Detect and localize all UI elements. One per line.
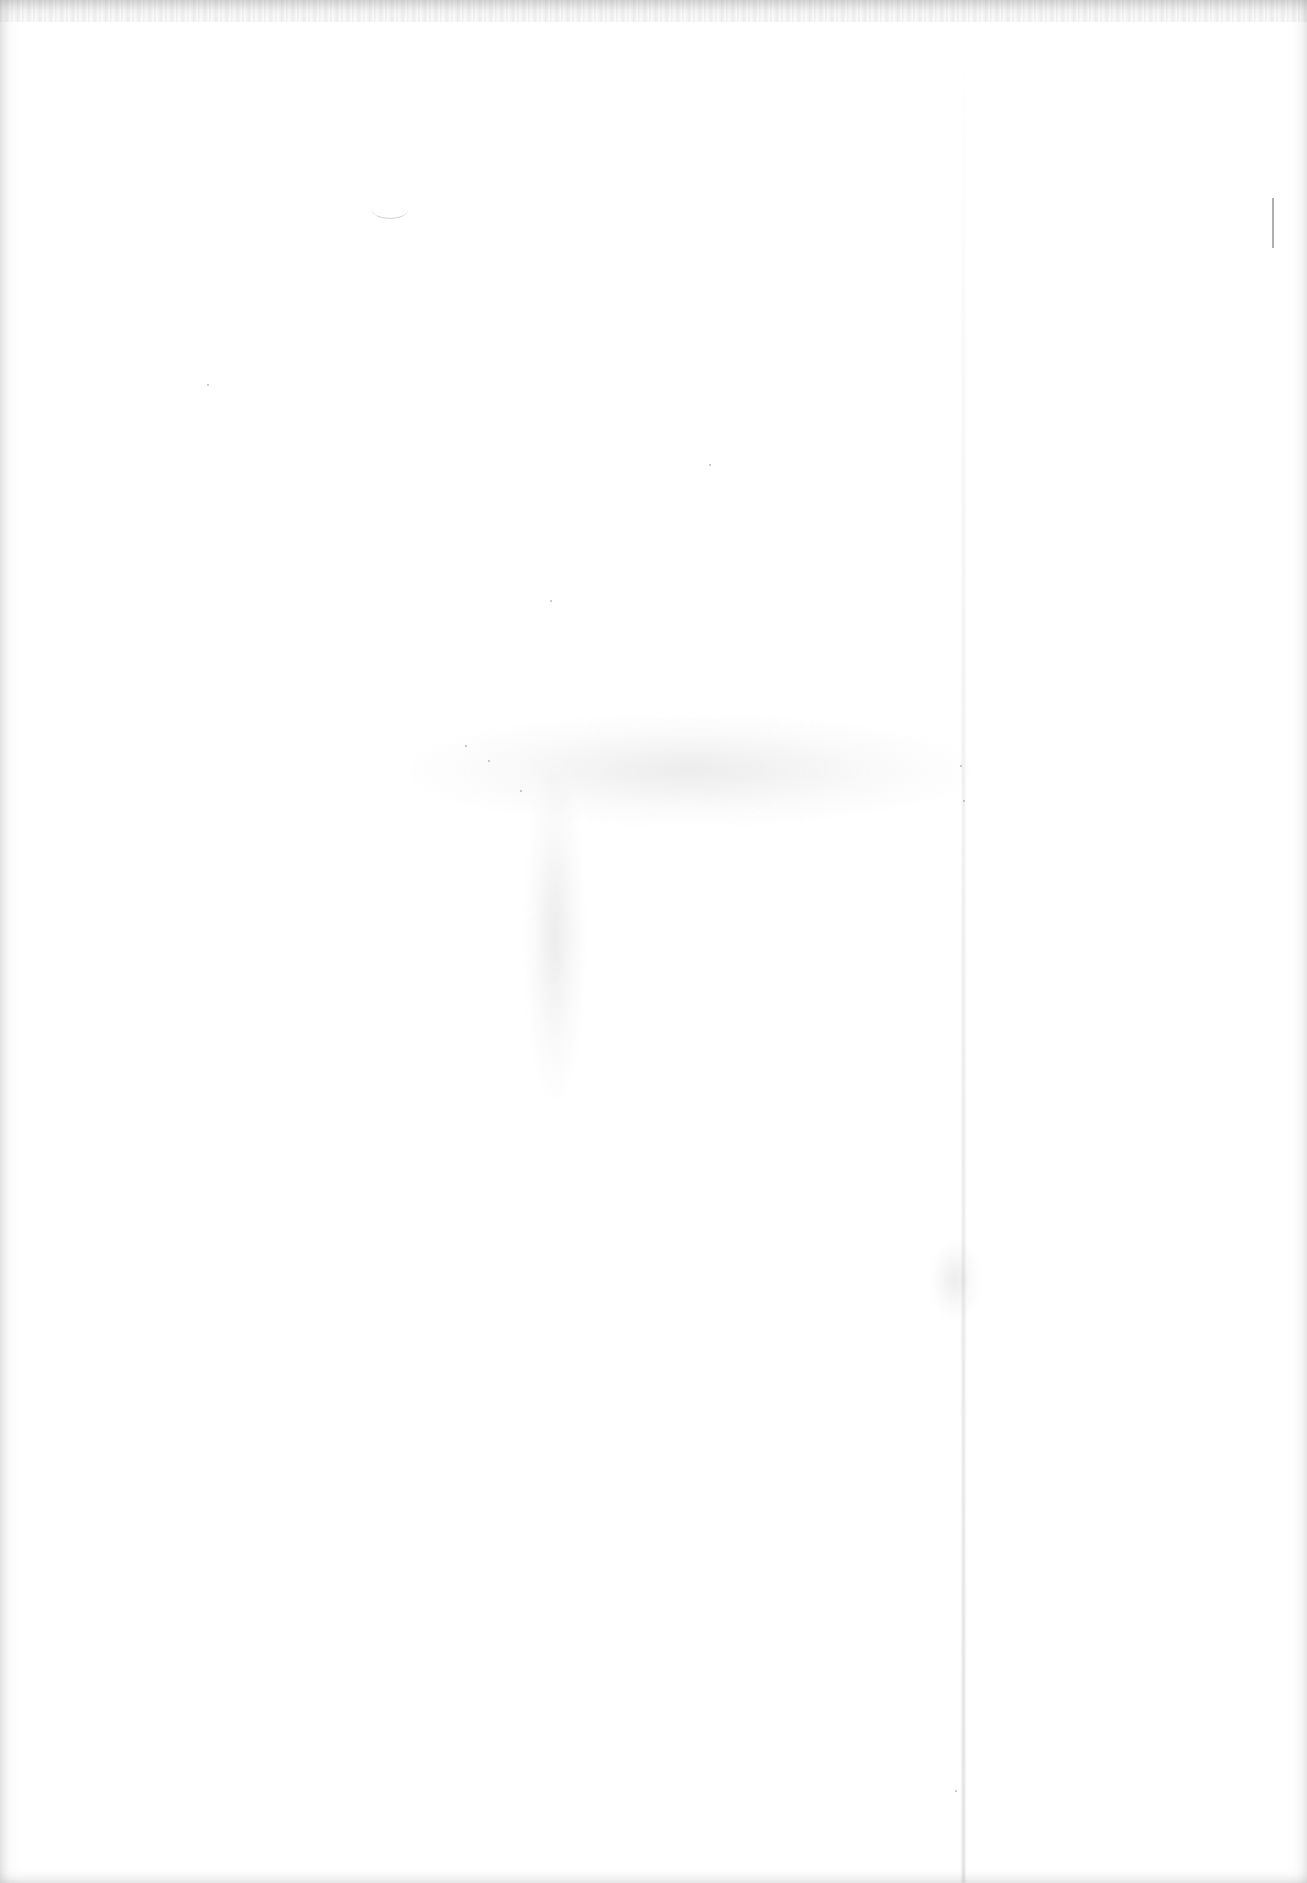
blank-document-page (0, 0, 1307, 1883)
dust-speck (960, 765, 962, 767)
dust-speck (963, 800, 965, 802)
bleed-through-shadow (410, 715, 970, 825)
paper-fold-shadow (962, 40, 965, 1883)
bleed-through-shadow (525, 770, 585, 1100)
dust-speck (207, 384, 209, 386)
dust-speck (488, 760, 490, 762)
faint-paper-mark (372, 200, 408, 219)
vertical-margin-tick-mark (1272, 198, 1274, 248)
dust-speck (520, 790, 522, 792)
scan-top-edge-noise (0, 0, 1307, 22)
dust-speck (465, 745, 467, 747)
dust-speck (955, 1790, 957, 1792)
dust-speck (709, 464, 711, 466)
bleed-through-shadow (930, 1240, 980, 1320)
dust-speck (550, 600, 552, 602)
scan-edge-vignette (0, 0, 1307, 1883)
